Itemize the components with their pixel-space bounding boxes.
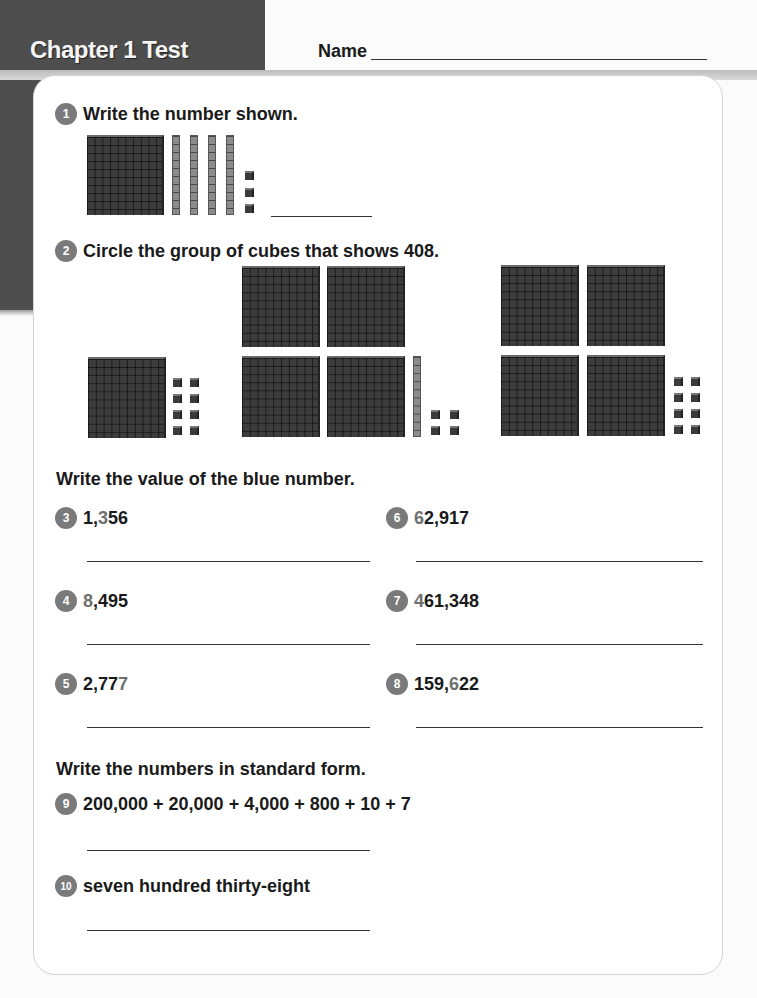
answer-line-q7[interactable]: [416, 644, 703, 645]
question-number-badge: 9: [55, 793, 77, 815]
name-label: Name: [318, 41, 367, 62]
ones-cube: [691, 377, 700, 386]
ones-cube: [173, 410, 182, 419]
answer-line-q4[interactable]: [87, 644, 370, 645]
question-prompt: Circle the group of cubes that shows 408…: [83, 241, 439, 262]
ones-cube: [190, 426, 199, 435]
blue-digit: 8: [83, 591, 93, 611]
tens-rod: [226, 135, 234, 215]
question-5: 5 2,777: [55, 673, 128, 695]
number-value: 62,917: [414, 508, 469, 529]
ones-cube: [691, 409, 700, 418]
ones-cube: [173, 394, 182, 403]
ones-cube: [190, 394, 199, 403]
answer-line-q5[interactable]: [87, 727, 370, 728]
hundreds-flat: [327, 356, 405, 437]
question-number-badge: 5: [55, 673, 77, 695]
number-value: 1,356: [83, 508, 128, 529]
question-10: 10 seven hundred thirty-eight: [55, 875, 310, 897]
hundreds-flat: [501, 355, 579, 436]
hundreds-flat: [501, 265, 579, 346]
question-4: 4 8,495: [55, 590, 128, 612]
tens-rod: [190, 135, 198, 215]
ones-cube: [190, 410, 199, 419]
question-number-badge: 8: [386, 673, 408, 695]
answer-line-q3[interactable]: [87, 561, 370, 562]
question-number-badge: 1: [55, 103, 77, 125]
hundreds-flat: [87, 135, 164, 215]
hundreds-flat: [242, 356, 320, 437]
name-input-line[interactable]: [371, 59, 707, 60]
ones-cube: [674, 393, 683, 402]
answer-line-q6[interactable]: [416, 561, 703, 562]
question-3: 3 1,356: [55, 507, 128, 529]
question-6: 6 62,917: [386, 507, 469, 529]
question-prompt: seven hundred thirty-eight: [83, 876, 310, 897]
question-number-badge: 3: [55, 507, 77, 529]
hundreds-flat: [88, 357, 166, 438]
blue-digit: 6: [414, 508, 424, 528]
answer-line-q1[interactable]: [271, 216, 372, 217]
number-value: 2,777: [83, 674, 128, 695]
tens-rod: [172, 135, 180, 215]
question-number-badge: 2: [55, 240, 77, 262]
ones-cube: [245, 204, 254, 213]
hundreds-flat: [242, 266, 320, 347]
name-field[interactable]: Name: [318, 41, 707, 62]
question-7: 7 461,348: [386, 590, 479, 612]
page-title: Chapter 1 Test: [30, 36, 188, 64]
question-number-badge: 7: [386, 590, 408, 612]
question-9: 9 200,000 + 20,000 + 4,000 + 800 + 10 + …: [55, 793, 411, 815]
question-prompt: 200,000 + 20,000 + 4,000 + 800 + 10 + 7: [83, 794, 411, 815]
question-number-badge: 4: [55, 590, 77, 612]
ones-cube: [190, 378, 199, 387]
ones-cube: [674, 425, 683, 434]
question-prompt: Write the number shown.: [83, 104, 298, 125]
number-value: 461,348: [414, 591, 479, 612]
blue-digit: 7: [118, 674, 128, 694]
section-heading-standard: Write the numbers in standard form.: [56, 759, 366, 780]
ones-cube: [450, 426, 459, 435]
ones-cube: [431, 426, 440, 435]
blue-digit: 3: [98, 508, 108, 528]
number-value: 159,622: [414, 674, 479, 695]
ones-cube: [450, 410, 459, 419]
hundreds-flat: [587, 265, 665, 346]
ones-cube: [674, 377, 683, 386]
number-value: 8,495: [83, 591, 128, 612]
answer-line-q10[interactable]: [87, 930, 370, 931]
question-8: 8 159,622: [386, 673, 479, 695]
tens-rod: [413, 356, 421, 437]
tens-rod: [208, 135, 216, 215]
question-1: 1 Write the number shown.: [55, 103, 298, 125]
section-heading-value: Write the value of the blue number.: [56, 469, 355, 490]
ones-cube: [691, 393, 700, 402]
ones-cube: [674, 409, 683, 418]
answer-line-q9[interactable]: [87, 850, 370, 851]
question-2: 2 Circle the group of cubes that shows 4…: [55, 240, 439, 262]
ones-cube: [173, 426, 182, 435]
ones-cube: [245, 171, 254, 180]
hundreds-flat: [327, 266, 405, 347]
blue-digit: 4: [414, 591, 424, 611]
question-number-badge: 6: [386, 507, 408, 529]
ones-cube: [691, 425, 700, 434]
question-number-badge: 10: [55, 875, 77, 897]
ones-cube: [173, 378, 182, 387]
ones-cube: [431, 410, 440, 419]
blue-digit: 6: [449, 674, 459, 694]
hundreds-flat: [587, 355, 665, 436]
answer-line-q8[interactable]: [416, 727, 703, 728]
ones-cube: [245, 188, 254, 197]
